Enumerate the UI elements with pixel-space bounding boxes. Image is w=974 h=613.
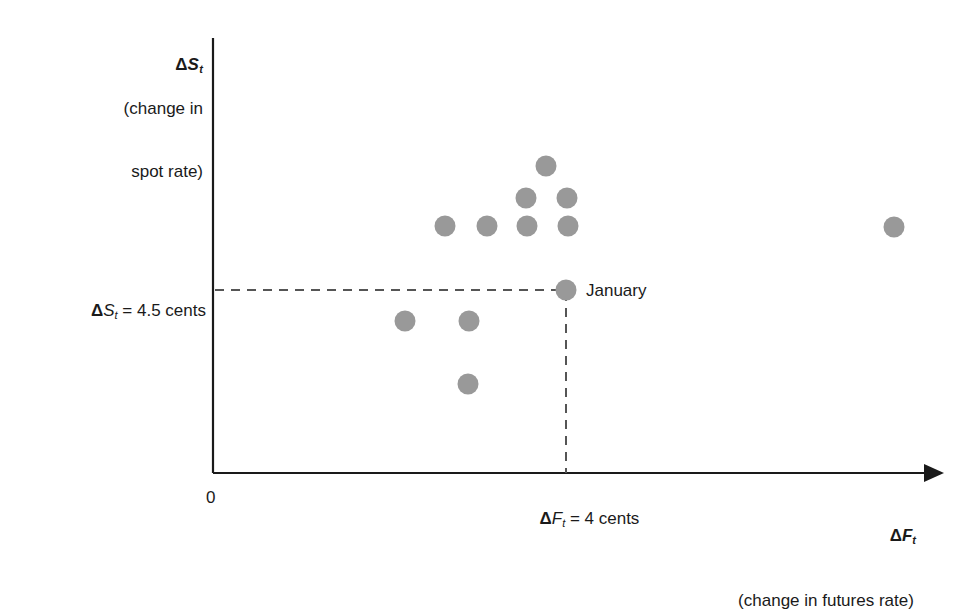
y-threshold-label: ΔSt = 4.5 cents bbox=[26, 279, 206, 323]
y-axis-desc-line2: spot rate) bbox=[40, 161, 203, 182]
data-point-outlier bbox=[884, 217, 905, 238]
data-point bbox=[435, 216, 456, 237]
data-point bbox=[516, 188, 537, 209]
origin-label: 0 bbox=[206, 487, 215, 508]
y-axis-desc-line1: (change in bbox=[40, 98, 203, 119]
data-point bbox=[395, 311, 416, 332]
data-point bbox=[477, 216, 498, 237]
data-point bbox=[458, 374, 479, 395]
data-point-january bbox=[556, 280, 577, 301]
data-points-group bbox=[395, 156, 905, 395]
data-point bbox=[459, 311, 480, 332]
x-axis-desc: (change in futures rate) bbox=[700, 590, 952, 611]
data-point bbox=[558, 216, 579, 237]
january-point-label: January bbox=[586, 280, 646, 301]
x-axis-symbol: ΔFt bbox=[700, 525, 952, 548]
x-threshold-label: ΔFt = 4 cents bbox=[500, 487, 660, 531]
x-axis-title: ΔFt (change in futures rate) bbox=[700, 483, 952, 613]
data-point bbox=[517, 216, 538, 237]
data-point bbox=[536, 156, 557, 177]
x-axis-arrow-icon bbox=[924, 464, 944, 482]
data-point bbox=[557, 188, 578, 209]
y-axis-title: ΔSt (change in spot rate) bbox=[40, 33, 203, 224]
y-axis-symbol: ΔSt bbox=[175, 55, 203, 74]
